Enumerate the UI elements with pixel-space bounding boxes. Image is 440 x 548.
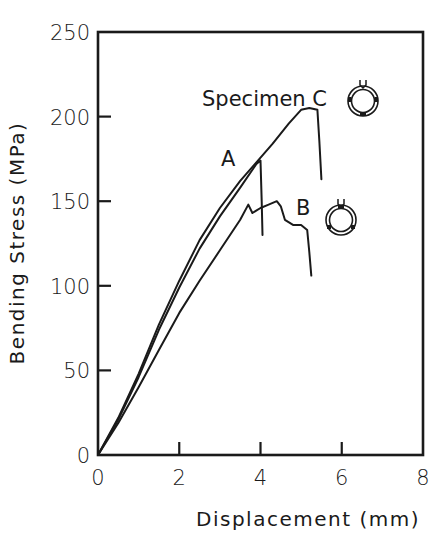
x-tick-label: 0 — [91, 466, 104, 490]
x-axis-title: Displacement (mm) — [196, 507, 420, 531]
y-axis-title: Bending Stress (MPa) — [5, 122, 29, 365]
x-tick-label: 4 — [254, 466, 267, 490]
curves — [98, 108, 321, 455]
x-tick-label: 6 — [335, 466, 348, 490]
curve-specimen-c — [98, 108, 321, 455]
label-b: B — [296, 196, 310, 220]
x-tick-label: 2 — [173, 466, 186, 490]
load-arrow-icon — [360, 80, 366, 88]
y-tick-label: 250 — [50, 21, 90, 45]
x-axis-ticks: 02468 — [91, 442, 429, 490]
x-tick-label: 8 — [416, 466, 429, 490]
ring-loading-icon-c — [348, 80, 378, 116]
y-tick-label: 150 — [50, 190, 90, 214]
y-tick-label: 200 — [50, 106, 90, 130]
label-a: A — [221, 147, 236, 171]
y-axis-ticks: 050100150200250 — [50, 21, 111, 468]
y-tick-label: 0 — [77, 444, 90, 468]
curve-a — [98, 161, 263, 455]
ring-loading-icon-b — [326, 199, 356, 235]
y-tick-label: 50 — [63, 359, 90, 383]
label-specimen-c: Specimen C — [202, 87, 327, 111]
bending-stress-chart: 050100150200250 02468 Bending Stress (MP… — [0, 0, 440, 548]
y-tick-label: 100 — [50, 275, 90, 299]
